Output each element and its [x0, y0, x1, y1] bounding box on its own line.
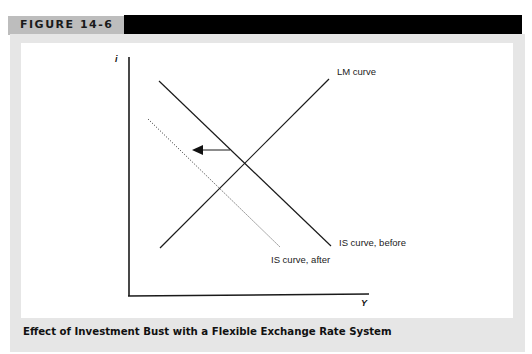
- y-axis-label: i: [115, 54, 118, 64]
- lm-curve-line: [160, 79, 329, 248]
- is-curve-after-line: [148, 119, 280, 247]
- figure-caption: Effect of Investment Bust with a Flexibl…: [23, 326, 392, 337]
- x-axis: [128, 294, 369, 296]
- shift-left-arrow-icon: [192, 145, 230, 155]
- is-curve-before-label: IS curve, before: [339, 237, 406, 248]
- is-lm-chart: [0, 0, 532, 354]
- is-curve-after-label: IS curve, after: [271, 254, 330, 265]
- x-axis-label: Y: [361, 298, 367, 308]
- lm-curve-label: LM curve: [337, 66, 376, 77]
